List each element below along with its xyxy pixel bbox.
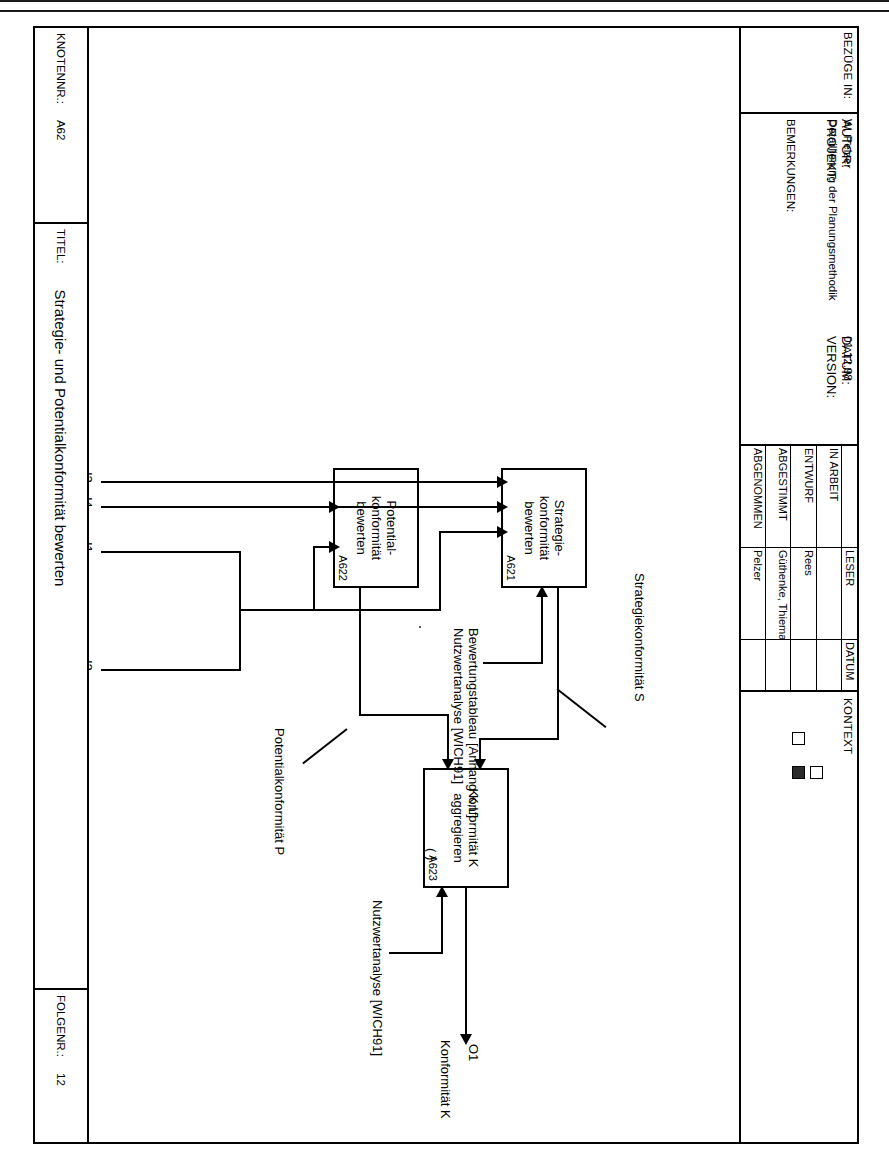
output-label-o1-code: O1 (466, 1044, 481, 1061)
input-code-i2: I2 (89, 660, 95, 671)
branch-line-bus-to-a621 (439, 531, 441, 611)
table-row: IN ARBEIT (816, 446, 841, 690)
flow-line-strategiekonformitaet-4 (480, 738, 559, 740)
flow-line-potentialkonformitaet-2 (359, 714, 449, 716)
bezuege-in-cell: BEZÜGE IN: (741, 28, 857, 114)
mechanism-label-a621: Bewertungstableau [Anhang K,L] Nutzwerta… (451, 628, 481, 818)
cell-datum (766, 640, 790, 690)
input-line-i1 (101, 551, 241, 553)
arrow-line-a622-input-1 (101, 506, 333, 508)
table-header-row: LESER DATUM (841, 446, 857, 690)
sheet-header: BEZÜGE IN: AUTOR:W. Pelzer PROJEKT:Detai… (739, 28, 857, 1142)
table-row: ABGESTIMMT Güthenke, Thiemann (765, 446, 790, 690)
project-label: PROJEKT: (824, 119, 839, 181)
arrow-line-a621-merged-input (439, 531, 501, 533)
input-line-i2 (101, 669, 241, 671)
flow-label-potentialkonformitaet: Potentialkonformität P (272, 728, 287, 855)
cell-status: ABGESTIMMT (766, 446, 790, 548)
mechanism-label-a623: Nutzwertanalyse [WICH91] (370, 900, 385, 1056)
branch-line-bus-to-a622 (313, 546, 315, 610)
scan-speck (419, 626, 421, 628)
leader-line-potentialkonformitaet (302, 728, 347, 764)
cell-leser: Pelzer (741, 548, 765, 640)
kontext-cell: KONTEXT (741, 692, 857, 1142)
knotennr-value: A62 (55, 120, 67, 140)
cell-status: ABGENOMMEN (741, 446, 765, 548)
activity-box-a622[interactable]: Potential- konformität bewerten A622 (333, 468, 419, 588)
author-line: AUTOR:W. Pelzer (842, 119, 854, 168)
cell-datum (817, 640, 841, 690)
output-line-o1 (465, 888, 467, 1038)
kontext-current-node-icon (792, 766, 805, 779)
idef0-diagram-canvas: Strategie- konformität bewerten A621 Pot… (89, 28, 739, 1142)
cell-leser: Rees (792, 548, 816, 640)
flow-line-potentialkonformitaet-1 (359, 588, 361, 716)
cell-leser: Güthenke, Thiemann (766, 548, 790, 640)
arrow-head-a622-input-2 (329, 541, 340, 553)
folgenr-label: FOLGENR.: (55, 995, 67, 1057)
date-label: DATUM: (839, 336, 854, 394)
activity-box-a622-code: A622 (337, 555, 349, 581)
mechanism-line-a621 (541, 588, 543, 664)
review-status-table: LESER DATUM IN ARBEIT ENTWURF Rees ABGES… (741, 446, 857, 692)
activity-box-a621[interactable]: Strategie- konformität bewerten A621 (501, 468, 587, 588)
cell-status: IN ARBEIT (817, 446, 841, 548)
leader-line-strategiekonformitaet (556, 688, 606, 728)
cell-datum (741, 640, 765, 690)
titel-cell: TITEL: Strategie- und Potentialkonformit… (35, 224, 87, 990)
cell-leser (817, 548, 841, 640)
knotennr-label: KNOTENNR.: (55, 33, 67, 104)
arrow-head-a622-input-1 (329, 501, 340, 513)
mechanism-riser-a621 (483, 662, 543, 664)
column-header-status (842, 446, 857, 548)
author-label: AUTOR: (839, 119, 854, 181)
mechanism-arrow-head-a621 (536, 586, 548, 597)
remarks-label: BEMERKUNGEN: (785, 119, 797, 212)
folgenr-cell: FOLGENR.: 12 (35, 990, 87, 1142)
idef0-sheet: BEZÜGE IN: AUTOR:W. Pelzer PROJEKT:Detai… (33, 26, 859, 1144)
input-code-i1: I1 (89, 542, 95, 553)
input-code-i3: I3 (89, 472, 95, 483)
input-bus-horizontal (239, 551, 241, 671)
kontext-label: KONTEXT (842, 698, 854, 754)
arrow-line-i3 (101, 481, 501, 483)
version-label: VERSION: (824, 336, 839, 398)
kontext-node-box-icon (810, 766, 823, 779)
arrow-head-a621-merged-input (497, 526, 508, 538)
bezuege-in-label: BEZÜGE IN: (842, 32, 854, 99)
mechanism-riser-a623 (389, 952, 443, 954)
cell-datum (792, 640, 816, 690)
rotated-sheet-container: BEZÜGE IN: AUTOR:W. Pelzer PROJEKT:Detai… (0, 0, 889, 1174)
input-bus-vertical (239, 609, 315, 611)
titel-value: Strategie- und Potentialkonformität bewe… (53, 290, 70, 587)
flow-label-strategiekonformitaet: Strategiekonformität S (632, 573, 647, 702)
mechanism-line-a623 (441, 888, 443, 954)
activity-box-a621-code: A621 (505, 555, 517, 581)
mechanism-arrow-head-a623 (436, 886, 448, 897)
branch-line-bus-riser-a621 (313, 609, 441, 611)
project-line: PROJEKT:Detaillierung der Planungsmethod… (827, 119, 839, 301)
column-header-datum: DATUM (842, 640, 857, 690)
flow-line-strategiekonformitaet-1 (557, 588, 559, 740)
activity-box-a622-title: Potential- konformität bewerten (354, 470, 399, 586)
date-line: DATUM:01.12.98 (842, 336, 854, 381)
column-header-leser: LESER (842, 548, 857, 640)
folgenr-value: 12 (55, 1073, 67, 1086)
output-label-o1: Konformität K (438, 1040, 453, 1119)
titel-label: TITEL: (55, 229, 67, 264)
table-row: ABGENOMMEN Pelzer (741, 446, 765, 690)
table-row: ENTWURF Rees (791, 446, 816, 690)
arrow-head-i4 (497, 501, 508, 513)
author-project-cell: AUTOR:W. Pelzer PROJEKT:Detaillierung de… (741, 114, 857, 446)
knotennr-cell: KNOTENNR.: A62 (35, 28, 87, 224)
sheet-footer: KNOTENNR.: A62 TITEL: Strategie- und Pot… (35, 28, 89, 1142)
cell-status: ENTWURF (792, 446, 816, 548)
kontext-node-box-icon (792, 732, 805, 745)
input-code-i4: I4 (89, 497, 95, 508)
activity-box-a621-title: Strategie- konformität bewerten (522, 470, 567, 586)
tunnel-marker-a623: ( ) (424, 848, 439, 860)
arrow-head-i3 (497, 476, 508, 488)
